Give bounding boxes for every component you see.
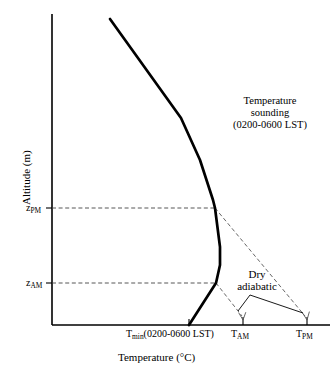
y-tick-label-zpm-subscript: PM: [30, 206, 41, 215]
dry-adiabat-pm-arrowhead: [302, 312, 309, 320]
x-tick-label-tmin: Tmin(0200-0600 LST): [126, 328, 214, 341]
x-tick-label-tmin-suffix: (0200-0600 LST): [144, 328, 214, 339]
x-tick-label-tam-subscript: AM: [237, 332, 249, 341]
dry-adiabatic-leader-left: [238, 295, 250, 311]
x-tick-label-tmin-subscript: min: [132, 332, 144, 341]
dry-adiabatic-leader-right: [250, 295, 303, 313]
x-axis-title: Temperature (°C): [118, 351, 195, 363]
dry-adiabat-pm: [215, 208, 305, 316]
dry-adiabatic-annotation-line1: Dry: [228, 268, 286, 280]
temperature-sounding-curve: [110, 19, 220, 325]
dry-adiabatic-annotation: Dry adiabatic: [228, 268, 286, 293]
y-tick-label-zam-subscript: AM: [30, 281, 42, 290]
y-tick-label-zpm: zPM: [26, 202, 41, 215]
sounding-annotation-line2: sounding: [218, 107, 322, 119]
y-axis-title: Altitude (m): [20, 150, 32, 205]
sounding-annotation-line3: (0200-0600 LST): [218, 119, 322, 131]
sounding-annotation: Temperature sounding (0200-0600 LST): [218, 95, 322, 130]
dry-adiabatic-annotation-line2: adiabatic: [228, 280, 286, 292]
x-tick-label-tpm-subscript: PM: [302, 332, 313, 341]
y-tick-label-zam: zAM: [26, 277, 42, 290]
dry-adiabat-am-arrowhead: [239, 312, 246, 320]
x-tick-label-tpm: TPM: [296, 328, 313, 341]
plot-area: [0, 0, 334, 374]
temperature-sounding-figure: Altitude (m) Temperature (°C) zPM zAM Tm…: [0, 0, 334, 374]
sounding-annotation-line1: Temperature: [218, 95, 322, 107]
x-tick-label-tam: TAM: [231, 328, 249, 341]
